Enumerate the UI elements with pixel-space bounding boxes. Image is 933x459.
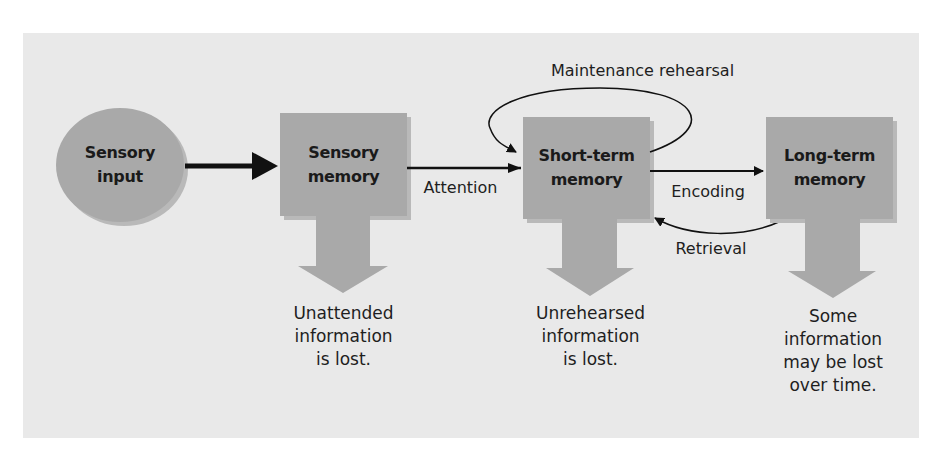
edge-label-maintenance: Maintenance rehearsal [545, 59, 740, 83]
note-line: information [513, 325, 668, 348]
arrowhead-icon [252, 152, 278, 180]
note-line: Unattended [270, 302, 417, 325]
label-line: input [60, 165, 180, 189]
loss-note-sensory: Unattended information is lost. [270, 302, 417, 371]
edge-label-attention: Attention [413, 176, 508, 200]
edge-label-retrieval: Retrieval [665, 237, 757, 261]
loss-note-long-term: Some information may be lost over time. [758, 305, 908, 397]
label-line: Short-term [523, 144, 650, 168]
note-line: is lost. [270, 348, 417, 371]
loss-note-short-term: Unrehearsed information is lost. [513, 302, 668, 371]
loss-arrow-icon [788, 219, 876, 298]
note-line: may be lost [758, 351, 908, 374]
edge-label-encoding: Encoding [662, 180, 754, 204]
note-line: information [270, 325, 417, 348]
short-term-memory-label: Short-term memory [523, 144, 650, 192]
sensory-input-label: Sensory input [60, 141, 180, 189]
loss-arrow-icon [298, 216, 388, 293]
note-line: Unrehearsed [513, 302, 668, 325]
label-line: Sensory [280, 141, 407, 165]
note-line: is lost. [513, 348, 668, 371]
label-line: Long-term [766, 144, 893, 168]
node-sensory-memory [280, 113, 411, 293]
label-line: memory [766, 168, 893, 192]
long-term-memory-label: Long-term memory [766, 144, 893, 192]
label-line: Sensory [60, 141, 180, 165]
label-line: memory [523, 168, 650, 192]
edge-input-to-sensory [185, 152, 278, 180]
sensory-memory-label: Sensory memory [280, 141, 407, 189]
note-line: information [758, 328, 908, 351]
label-line: memory [280, 165, 407, 189]
note-line: over time. [758, 374, 908, 397]
edge-retrieval [655, 218, 781, 233]
loss-arrow-icon [546, 219, 634, 296]
note-line: Some [758, 305, 908, 328]
